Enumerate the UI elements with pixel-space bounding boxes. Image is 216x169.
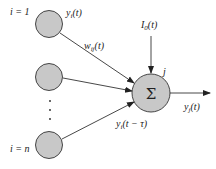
delay-label: yi(t − τ) — [115, 118, 148, 131]
input-node-n — [36, 132, 63, 159]
bias-label: I0(t) — [140, 19, 158, 32]
ellipsis-dot — [49, 109, 51, 111]
ellipsis-dot — [49, 118, 51, 120]
input-1-output-label: yi(t) — [65, 7, 83, 20]
node-j-label: j — [161, 66, 166, 77]
connection-input-2 — [63, 78, 132, 91]
output-label: yj(t) — [183, 101, 201, 114]
input-1-index-label: i = 1 — [10, 6, 30, 17]
ellipsis-dot — [49, 100, 51, 102]
neuron-diagram: Σ i = 1 i = n yi(t) wij(t) I0(t) j yj(t)… — [0, 0, 216, 169]
input-node-1 — [36, 11, 63, 38]
sigma-symbol: Σ — [146, 85, 157, 103]
input-node-2 — [36, 64, 63, 91]
input-n-index-label: i = n — [10, 143, 30, 154]
